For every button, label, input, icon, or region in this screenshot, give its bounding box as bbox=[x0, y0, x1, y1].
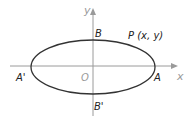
x-axis-label: x bbox=[176, 70, 184, 83]
x-axis-arrow-icon bbox=[171, 63, 178, 69]
point-b-prime-label: B' bbox=[94, 101, 104, 112]
point-a-label: A bbox=[153, 72, 161, 83]
ellipse-diagram: y x O B B' A A' P (x, y) bbox=[0, 0, 189, 119]
y-axis-arrow-icon bbox=[90, 8, 96, 15]
y-axis-label: y bbox=[83, 4, 91, 17]
point-a-prime-label: A' bbox=[15, 72, 26, 83]
point-b-label: B bbox=[95, 28, 102, 39]
point-p-label: P (x, y) bbox=[128, 30, 163, 41]
origin-label: O bbox=[81, 72, 89, 83]
